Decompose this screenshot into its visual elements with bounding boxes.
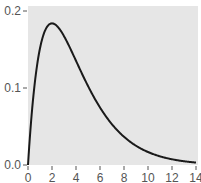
x-tick-label: 2	[49, 171, 56, 183]
x-tick-label: 12	[165, 171, 179, 183]
chi-square-density-chart: 0.00.10.2 02468101214	[0, 0, 201, 183]
x-tick-label: 4	[73, 171, 80, 183]
x-tick-label: 0	[25, 171, 32, 183]
y-axis: 0.00.10.2	[4, 4, 27, 172]
x-axis: 02468101214	[25, 166, 201, 183]
x-tick-label: 14	[189, 171, 201, 183]
plot-area	[28, 6, 198, 165]
x-tick-label: 8	[121, 171, 128, 183]
y-tick-label: 0.0	[4, 158, 21, 172]
y-tick-label: 0.2	[4, 4, 21, 18]
x-tick-label: 10	[141, 171, 155, 183]
x-tick-label: 6	[97, 171, 104, 183]
y-tick-label: 0.1	[4, 81, 21, 95]
